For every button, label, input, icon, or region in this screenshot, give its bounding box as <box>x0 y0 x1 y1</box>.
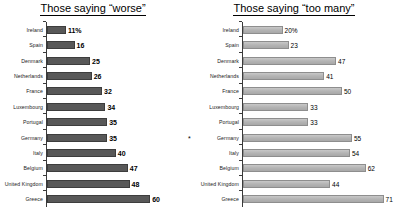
category-label: Netherlands <box>186 73 239 79</box>
bar-value-label: 32 <box>102 88 112 95</box>
bar-value-label: 71 <box>384 196 393 203</box>
bar-row: United Kingdom44 <box>186 176 402 191</box>
category-label: Luxembourg <box>186 104 239 110</box>
chart-panel-toomany: Those saying “too many” Ireland20%Spain2… <box>186 0 402 211</box>
bar-row: Belgium62 <box>186 161 402 176</box>
bar-row: Denmark25 <box>0 53 186 68</box>
bar-row: Denmark47 <box>186 53 402 68</box>
category-label: Portugal <box>186 119 239 125</box>
axis-tick <box>239 98 242 99</box>
category-label: Italy <box>186 150 239 156</box>
bar-value-label: 48 <box>130 180 140 187</box>
bar-value-label: 34 <box>105 103 115 110</box>
category-label: Luxembourg <box>0 104 43 110</box>
bar-row: Italy54 <box>186 145 402 160</box>
bar <box>47 103 105 111</box>
bar <box>47 164 128 172</box>
category-label: Germany <box>0 135 43 141</box>
axis-tick <box>43 144 46 145</box>
category-label: United Kingdom <box>0 181 43 187</box>
plot-area-worse: Ireland11%Spain16Denmark25Netherlands26F… <box>0 22 186 207</box>
bar <box>243 57 336 65</box>
category-label: Spain <box>186 42 239 48</box>
bar-row: United Kingdom48 <box>0 176 186 191</box>
bar <box>243 149 350 157</box>
axis-tick <box>239 36 242 37</box>
axis-tick <box>239 52 242 53</box>
bar-row: Italy40 <box>0 145 186 160</box>
bar-row: Netherlands41 <box>186 68 402 83</box>
bar <box>47 87 102 95</box>
category-label: Ireland <box>0 27 43 33</box>
bar-value-label: 11% <box>66 26 82 33</box>
bar-row: France32 <box>0 84 186 99</box>
bar-row: Luxembourg33 <box>186 99 402 114</box>
bar-value-label: 47 <box>128 165 138 172</box>
bar <box>243 87 342 95</box>
category-label: Germany <box>186 135 239 141</box>
bar-row: Netherlands26 <box>0 68 186 83</box>
bar <box>243 195 384 203</box>
bar <box>243 164 366 172</box>
bar-row: Ireland20% <box>186 22 402 37</box>
bar-value-label: 47 <box>336 57 345 64</box>
axis-tick <box>43 83 46 84</box>
bar-row: Greece71 <box>186 191 402 206</box>
bar-row: Belgium47 <box>0 161 186 176</box>
bar <box>243 134 352 142</box>
bar-row: Portugal35 <box>0 114 186 129</box>
bar <box>47 180 130 188</box>
bar-value-label: 25 <box>90 57 100 64</box>
axis-tick <box>43 175 46 176</box>
bar-value-label: 20% <box>283 26 298 33</box>
bar-row: Portugal33 <box>186 114 402 129</box>
bar-row: Greece60 <box>0 191 186 206</box>
chart-title-toomany-text: Those saying “too many” <box>233 2 354 16</box>
axis-tick <box>239 175 242 176</box>
chart-panel-worse: Those saying “worse” Ireland11%Spain16De… <box>0 0 186 211</box>
category-label: Belgium <box>186 165 239 171</box>
bar-value-label: 60 <box>150 196 160 203</box>
bar <box>243 118 308 126</box>
chart-title-toomany: Those saying “too many” <box>186 2 402 14</box>
bar-value-label: 55 <box>352 134 361 141</box>
category-label: Spain <box>0 42 43 48</box>
category-label: France <box>186 88 239 94</box>
bar <box>47 72 92 80</box>
axis-tick <box>43 113 46 114</box>
bar-value-label: 35 <box>107 134 117 141</box>
plot-area-toomany: Ireland20%Spain23Denmark47Netherlands41F… <box>186 22 402 207</box>
bar-row: Spain16 <box>0 37 186 52</box>
category-label: France <box>0 88 43 94</box>
category-label: United Kingdom <box>186 181 239 187</box>
axis-tick <box>43 160 46 161</box>
bar-row: Ireland11% <box>0 22 186 37</box>
bar <box>47 195 150 203</box>
category-label: Netherlands <box>0 73 43 79</box>
axis-tick <box>239 83 242 84</box>
axis-tick <box>43 36 46 37</box>
bar-value-label: 62 <box>366 165 375 172</box>
bar <box>243 41 289 49</box>
category-label: Denmark <box>186 58 239 64</box>
axis-tick <box>43 52 46 53</box>
bar-value-label: 16 <box>75 42 85 49</box>
chart-title-worse-text: Those saying “worse” <box>40 2 145 16</box>
bar <box>47 118 107 126</box>
category-label: Portugal <box>0 119 43 125</box>
axis-tick <box>43 129 46 130</box>
bar <box>243 180 330 188</box>
axis-tick <box>239 67 242 68</box>
axis-tick <box>43 98 46 99</box>
axis-tick <box>43 21 46 22</box>
bar-value-label: 23 <box>289 42 298 49</box>
bar-row: France50 <box>186 84 402 99</box>
bar-value-label: 33 <box>308 119 317 126</box>
bar-value-label: 40 <box>116 149 126 156</box>
category-label: Italy <box>0 150 43 156</box>
bar <box>47 149 116 157</box>
chart-page: Those saying “worse” Ireland11%Spain16De… <box>0 0 402 211</box>
bar-row: *Germany55 <box>186 130 402 145</box>
chart-title-worse: Those saying “worse” <box>0 2 186 14</box>
bar-row: Germany35 <box>0 130 186 145</box>
